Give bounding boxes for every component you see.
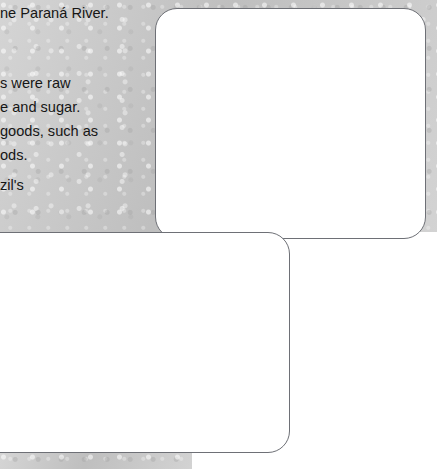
export-chart-card — [155, 8, 426, 239]
article-line-2: e and sugar. — [0, 100, 80, 115]
article-line-5: zil's — [0, 178, 24, 193]
article-line-0: ne Paraná River. — [0, 6, 109, 21]
page-canvas: ne Paraná River.s were rawe and sugar.go… — [0, 0, 437, 469]
paper-texture-bottom — [0, 452, 192, 469]
article-line-1: s were raw — [0, 76, 71, 91]
article-line-3: goods, such as — [0, 124, 98, 139]
article-line-4: ods. — [0, 148, 28, 163]
import-chart-card — [0, 232, 290, 453]
